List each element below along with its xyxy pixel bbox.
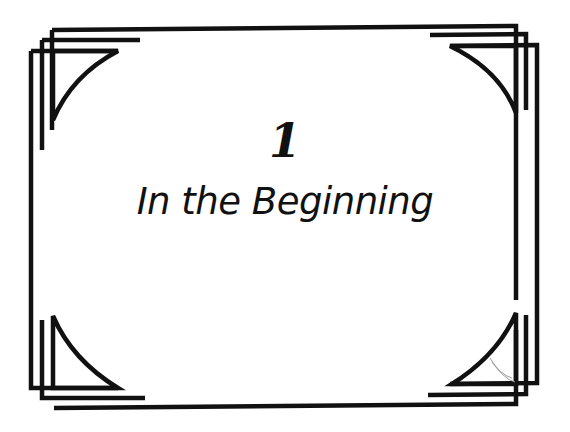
- corner-ornament-top-right: [450, 46, 516, 113]
- corner-ornament-bottom-right: [452, 313, 516, 384]
- pencil-mark: [490, 358, 515, 382]
- corner-ornament-bottom-left: [53, 316, 118, 388]
- chapter-number: 1: [0, 118, 570, 164]
- corner-ornament-top-left: [53, 51, 118, 120]
- chapter-title: In the Beginning: [0, 183, 570, 220]
